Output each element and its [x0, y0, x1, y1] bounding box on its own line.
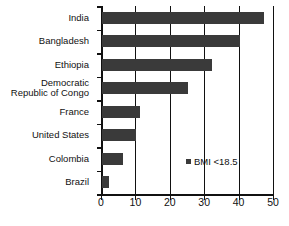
bar-row: [102, 77, 274, 101]
category-tick: [97, 30, 101, 32]
x-tick-label-40: 40: [233, 196, 245, 208]
category-row: Brazil: [0, 171, 94, 195]
category-label-united-states: United States: [32, 130, 89, 141]
bar: [102, 82, 188, 94]
legend-swatch-icon: [186, 159, 191, 164]
bar-row: [102, 6, 274, 30]
category-label-france: France: [59, 107, 89, 118]
bar-row: [102, 53, 274, 77]
x-tick-label-20: 20: [164, 196, 176, 208]
x-tick-label-30: 30: [198, 196, 210, 208]
category-label-democratic-republic-of-congo: Democratic Republic of Congo: [11, 78, 89, 99]
x-tick-label-0: 0: [98, 196, 104, 208]
category-tick: [97, 124, 101, 126]
category-row: India: [0, 6, 94, 30]
category-row: Democratic Republic of Congo: [0, 77, 94, 101]
bar-row: [102, 100, 274, 124]
category-row: Colombia: [0, 147, 94, 171]
category-row: France: [0, 100, 94, 124]
bar-row: [102, 30, 274, 54]
x-tick-label-10: 10: [130, 196, 142, 208]
x-axis-line: [101, 194, 274, 196]
category-tick: [97, 77, 101, 79]
category-row: Ethiopia: [0, 53, 94, 77]
bmi-bar-chart: India Bangladesh Ethiopia Democratic Rep…: [0, 0, 289, 226]
category-row: United States: [0, 124, 94, 148]
category-label-bangladesh: Bangladesh: [39, 36, 89, 47]
category-label-colombia: Colombia: [49, 154, 89, 165]
bar: [102, 153, 123, 165]
category-tick: [97, 6, 101, 8]
legend-label: BMI <18.5: [194, 156, 238, 167]
bar: [102, 176, 109, 188]
category-label-india: India: [68, 13, 89, 24]
bar: [102, 12, 264, 24]
bar: [102, 59, 212, 71]
bar: [102, 35, 240, 47]
x-tick-label-50: 50: [267, 196, 279, 208]
category-tick: [97, 100, 101, 102]
category-tick: [97, 147, 101, 149]
category-tick: [97, 53, 101, 55]
chart-legend: BMI <18.5: [186, 156, 238, 167]
category-row: Bangladesh: [0, 30, 94, 54]
bar: [102, 129, 136, 141]
y-axis-category-labels: India Bangladesh Ethiopia Democratic Rep…: [0, 6, 94, 194]
bar-row: [102, 124, 274, 148]
category-tick: [97, 171, 101, 173]
category-label-brazil: Brazil: [65, 177, 89, 188]
bar: [102, 106, 140, 118]
bar-row: [102, 171, 274, 195]
category-label-ethiopia: Ethiopia: [55, 60, 89, 71]
